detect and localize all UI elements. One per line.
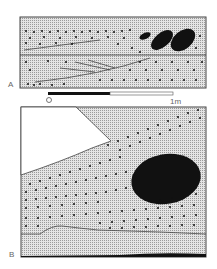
figure-canvas xyxy=(0,0,217,269)
panel-a-label: A xyxy=(8,80,13,89)
scale-bar xyxy=(47,92,174,103)
panel-b-label: B xyxy=(9,250,14,259)
panel-b xyxy=(21,107,206,257)
panel-a xyxy=(20,17,206,88)
scale-end-label: 1m xyxy=(170,97,181,106)
